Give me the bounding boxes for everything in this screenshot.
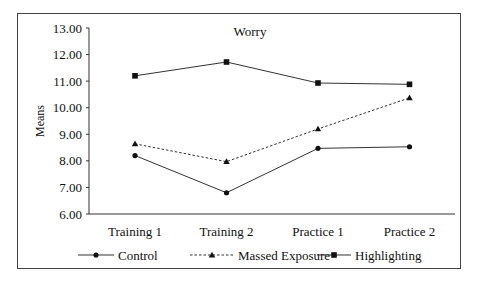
y-tick-label: 8.00 <box>59 153 82 168</box>
series-line <box>135 62 410 84</box>
data-point-square <box>132 73 138 79</box>
series-group <box>132 59 413 195</box>
legend-marker-square <box>331 252 337 258</box>
y-tick-label: 12.00 <box>53 47 82 62</box>
data-point-triangle <box>132 141 138 147</box>
legend-label: Control <box>118 248 158 263</box>
line-chart: 6.007.008.009.0010.0011.0012.0013.00Mean… <box>0 0 486 289</box>
series-line <box>135 98 410 162</box>
series-highlighting <box>132 59 412 87</box>
y-tick-label: 11.00 <box>53 74 82 89</box>
series-control <box>132 144 412 195</box>
y-tick-label: 10.00 <box>53 100 82 115</box>
series-massed-exposure <box>132 95 413 164</box>
data-point-circle <box>315 146 320 151</box>
y-axis-label: Means <box>33 105 47 137</box>
series-line <box>135 147 410 193</box>
legend-label: Massed Exposure <box>238 248 330 263</box>
legend-marker-circle <box>93 252 98 257</box>
y-tick-label: 7.00 <box>59 180 82 195</box>
legend-item-highlighting: Highlighting <box>317 248 422 263</box>
legend-label: Highlighting <box>355 248 422 263</box>
data-point-circle <box>132 153 137 158</box>
data-point-triangle <box>406 95 412 101</box>
data-point-circle <box>407 144 412 149</box>
axes: 6.007.008.009.0010.0011.0012.0013.00Mean… <box>33 21 455 240</box>
x-tick-label: Training 2 <box>199 224 253 239</box>
chart-title: Worry <box>234 24 267 39</box>
legend: ControlMassed ExposureHighlighting <box>78 248 422 263</box>
data-point-triangle <box>315 126 321 132</box>
y-tick-label: 9.00 <box>59 127 82 142</box>
data-point-circle <box>224 190 229 195</box>
legend-item-control: Control <box>78 248 158 263</box>
y-tick-label: 6.00 <box>59 207 82 222</box>
y-tick-label: 13.00 <box>53 21 82 36</box>
x-tick-label: Training 1 <box>108 224 162 239</box>
x-tick-label: Practice 1 <box>292 224 344 239</box>
legend-item-massed-exposure: Massed Exposure <box>190 248 330 263</box>
data-point-square <box>315 80 321 86</box>
chart-title-group: Worry <box>234 24 267 39</box>
data-point-square <box>407 82 413 88</box>
data-point-square <box>224 59 230 65</box>
x-tick-label: Practice 2 <box>384 224 436 239</box>
